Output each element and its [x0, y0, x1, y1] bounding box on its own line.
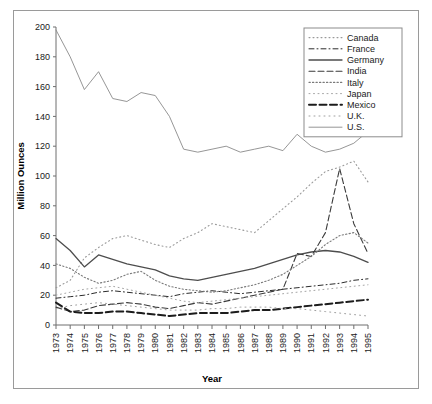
x-tick-label: 1977 [108, 333, 118, 353]
x-tick-label: 1973 [51, 333, 61, 353]
x-tick-label: 1978 [122, 333, 132, 353]
x-tick-label: 1990 [292, 333, 302, 353]
x-tick-label: 1986 [236, 333, 246, 353]
y-tick-label: 140 [35, 112, 50, 122]
y-tick-label: 180 [35, 52, 50, 62]
x-tick-label: 1984 [207, 333, 217, 353]
series-line-india [56, 169, 368, 312]
y-tick-label: 20 [40, 290, 50, 300]
x-tick-label: 1989 [278, 333, 288, 353]
x-tick-label: 1992 [321, 333, 331, 353]
y-tick-label: 160 [35, 82, 50, 92]
y-tick-label: 120 [35, 141, 50, 151]
y-tick-label: 80 [40, 201, 50, 211]
x-tick-label: 1983 [193, 333, 203, 353]
x-tick-label: 1988 [264, 333, 274, 353]
x-tick-label: 1976 [94, 333, 104, 353]
x-tick-label: 1994 [349, 333, 359, 353]
y-axis: 020406080100120140160180200 [35, 22, 56, 330]
legend-label-canada: Canada [347, 33, 379, 43]
chart-svg: 020406080100120140160180200 197319741975… [0, 0, 432, 404]
x-tick-label: 1975 [80, 333, 90, 353]
y-axis-title: Million Ounces [15, 142, 26, 210]
legend-label-italy: Italy [347, 78, 364, 88]
series-line-france [56, 279, 368, 298]
legend-label-japan: Japan [347, 89, 372, 99]
y-tick-label: 60 [40, 231, 50, 241]
chart-legend: CanadaFranceGermanyIndiaItalyJapanMexico… [304, 28, 402, 137]
x-tick-label: 1979 [136, 333, 146, 353]
series-line-canada [56, 161, 368, 288]
legend-label-us: U.S. [347, 122, 365, 132]
legend-label-uk: U.K. [347, 111, 365, 121]
x-tick-label: 1981 [165, 333, 175, 353]
x-tick-label: 1974 [65, 333, 75, 353]
legend-label-germany: Germany [347, 55, 385, 65]
x-tick-label: 1987 [250, 333, 260, 353]
x-tick-label: 1991 [306, 333, 316, 353]
legend-label-france: France [347, 44, 375, 54]
series-line-mexico [56, 300, 368, 316]
x-axis: 1973197419751976197719781979198019811982… [51, 325, 373, 353]
x-tick-label: 1980 [150, 333, 160, 353]
x-tick-label: 1982 [179, 333, 189, 353]
y-tick-label: 0 [45, 320, 50, 330]
line-chart: 020406080100120140160180200 197319741975… [0, 0, 432, 404]
x-axis-title: Year [202, 373, 222, 384]
series-line-italy [56, 233, 368, 293]
x-tick-label: 1995 [363, 333, 373, 353]
y-tick-label: 40 [40, 261, 50, 271]
legend-label-india: India [347, 66, 367, 76]
y-tick-label: 100 [35, 171, 50, 181]
x-tick-label: 1993 [335, 333, 345, 353]
x-tick-label: 1985 [221, 333, 231, 353]
series-line-japan [56, 285, 368, 303]
y-tick-label: 200 [35, 22, 50, 32]
legend-label-mexico: Mexico [347, 100, 376, 110]
